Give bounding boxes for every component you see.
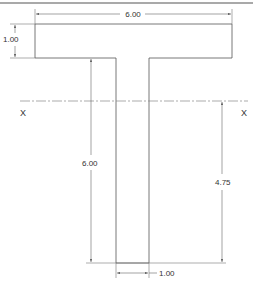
axis-label-right: X bbox=[241, 108, 247, 118]
dim-web-width: 1.00 bbox=[116, 263, 175, 278]
dim-web-width-label: 1.00 bbox=[159, 269, 175, 278]
axis-label-left: X bbox=[20, 108, 26, 118]
t-section-outline bbox=[35, 24, 232, 263]
dim-web-height-label: 6.00 bbox=[82, 159, 98, 168]
dim-web-height: 6.00 bbox=[82, 59, 98, 262]
dim-centroid-height-label: 4.75 bbox=[215, 178, 231, 187]
t-section-drawing: 6.00 1.00 X X 6.00 4.75 1.00 bbox=[0, 0, 256, 290]
dim-flange-thickness: 1.00 bbox=[3, 24, 35, 58]
dim-centroid-height: 4.75 bbox=[215, 102, 231, 262]
dim-flange-thickness-label: 1.00 bbox=[3, 35, 19, 44]
dim-flange-width: 6.00 bbox=[35, 9, 232, 24]
dim-flange-width-label: 6.00 bbox=[125, 10, 141, 19]
